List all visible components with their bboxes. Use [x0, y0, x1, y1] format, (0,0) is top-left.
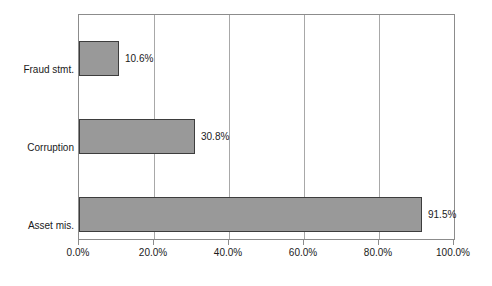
bar-chart: Fraud stmt. Corruption Asset mis. 10.6% … [0, 0, 492, 286]
bar-row: 91.5% [79, 197, 454, 232]
x-tick-20 [153, 240, 154, 245]
category-label-corruption: Corruption [2, 143, 74, 153]
category-axis-labels: Fraud stmt. Corruption Asset mis. [0, 14, 74, 240]
x-tick-0 [78, 240, 79, 245]
x-tick-60 [303, 240, 304, 245]
bar-asset-mis[interactable] [79, 197, 422, 232]
bar-fraud-stmt[interactable] [79, 41, 119, 76]
category-label-fraud-stmt: Fraud stmt. [2, 65, 74, 75]
plot-area: 10.6% 30.8% 91.5% [78, 14, 455, 240]
bar-row: 10.6% [79, 41, 454, 76]
bar-row: 30.8% [79, 119, 454, 154]
x-tick-label-40: 40.0% [214, 248, 242, 258]
x-tick-label-60: 60.0% [289, 248, 317, 258]
bar-value-fraud-stmt: 10.6% [125, 54, 153, 64]
bar-value-corruption: 30.8% [201, 132, 229, 142]
x-tick-80 [378, 240, 379, 245]
x-tick-label-100: 100.0% [436, 248, 470, 258]
x-tick-100 [453, 240, 454, 245]
x-tick-label-80: 80.0% [364, 248, 392, 258]
x-tick-40 [228, 240, 229, 245]
bar-value-asset-mis: 91.5% [428, 210, 456, 220]
x-tick-label-20: 20.0% [139, 248, 167, 258]
x-axis: 0.0% 20.0% 40.0% 60.0% 80.0% 100.0% [78, 240, 455, 280]
bar-corruption[interactable] [79, 119, 195, 154]
bars-layer: 10.6% 30.8% 91.5% [79, 15, 454, 239]
x-tick-label-0: 0.0% [67, 248, 90, 258]
category-label-asset-mis: Asset mis. [2, 221, 74, 231]
